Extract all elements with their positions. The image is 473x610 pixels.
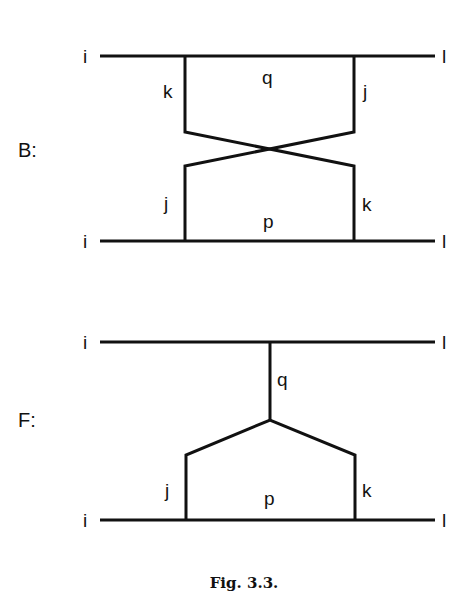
panel-label-b: B: [18,139,37,161]
f-right-leg-label: k [362,480,372,501]
f-left-leg-label: j [164,480,169,501]
f-bottom-center-label: p [264,488,275,509]
f-top-right-label: l [442,332,446,353]
b-top-center-label: q [262,67,273,88]
diagram-f: F: i l i l q j p k [18,332,446,531]
b-bottom-center-label: p [263,211,274,232]
f-top-left-label: i [83,332,87,353]
f-stem-label: q [277,369,288,390]
b-top-left-label: i [83,46,87,67]
b-top-right-leg-label: j [362,81,367,102]
b-bottom-right-label: l [442,231,446,252]
b-bottom-left-leg-label: j [163,193,168,214]
figure-canvas: B: i l i l k q j j p k F: i l i l q j p … [0,0,473,610]
b-top-right-label: l [442,46,446,67]
figure-caption: Fig. 3.3. [210,574,279,592]
b-top-left-leg-label: k [163,81,173,102]
diagram-b: B: i l i l k q j j p k [18,46,446,252]
f-bottom-left-label: i [83,510,87,531]
b-bottom-right-leg-label: k [362,194,372,215]
f-bottom-right-label: l [442,510,446,531]
panel-label-f: F: [18,409,36,431]
b-bottom-left-label: i [83,231,87,252]
